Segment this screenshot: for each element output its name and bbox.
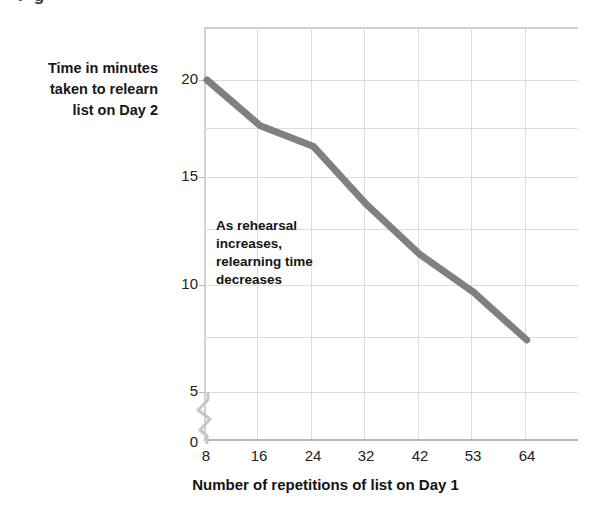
x-tick-label-16: 16	[239, 447, 279, 464]
x-tick-label-24: 24	[293, 447, 333, 464]
gridline-vertical	[418, 27, 419, 439]
x-tick-label-8: 8	[186, 447, 226, 464]
annotation-line-1: As rehearsal	[216, 217, 356, 235]
gridline-vertical	[525, 27, 526, 439]
y-axis-title-line-2: taken to relearn	[8, 79, 158, 100]
gridline-vertical	[364, 27, 365, 439]
gridline-horizontal	[204, 337, 578, 338]
gridline-horizontal	[204, 177, 578, 178]
y-tick-mark	[199, 80, 205, 81]
annotation-line-4: decreases	[216, 271, 356, 289]
gridline-horizontal	[204, 128, 578, 129]
x-tick-label-32: 32	[346, 447, 386, 464]
gridline-horizontal	[204, 392, 578, 393]
x-tick-label-53: 53	[453, 447, 493, 464]
chart-figure: Time in minutes taken to relearn list on…	[0, 0, 593, 514]
x-tick-label-64: 64	[507, 447, 547, 464]
y-axis-line	[204, 27, 206, 441]
annotation-line-2: increases,	[216, 235, 356, 253]
plot-frame-top-border	[204, 27, 578, 29]
y-axis-title-line-1: Time in minutes	[8, 58, 158, 79]
gridline-horizontal	[204, 80, 578, 81]
y-tick-mark	[199, 285, 205, 286]
y-tick-label-10: 10	[158, 275, 198, 292]
x-axis-line	[204, 439, 578, 441]
x-axis-title: Number of repetitions of list on Day 1	[0, 476, 593, 493]
y-tick-mark	[199, 177, 205, 178]
y-tick-label-15: 15	[158, 167, 198, 184]
chart-annotation: As rehearsal increases, relearning time …	[216, 217, 356, 289]
gridline-vertical	[471, 27, 472, 439]
annotation-line-3: relearning time	[216, 253, 356, 271]
y-axis-title: Time in minutes taken to relearn list on…	[8, 58, 158, 121]
y-tick-label-20: 20	[158, 70, 198, 87]
x-tick-label-42: 42	[400, 447, 440, 464]
y-tick-label-5: 5	[158, 382, 198, 399]
y-axis-tick-labels: 20 15 10 5 0	[150, 0, 198, 514]
y-axis-title-line-3: list on Day 2	[8, 100, 158, 121]
